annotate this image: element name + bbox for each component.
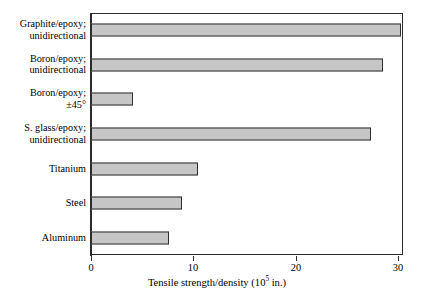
bar (91, 231, 169, 244)
bar (91, 162, 198, 175)
x-axis-tick (398, 256, 399, 261)
x-axis-tick-label: 20 (276, 262, 316, 274)
bar (91, 93, 133, 106)
x-axis-title-prefix: Tensile strength/density (10 (148, 277, 266, 288)
x-axis-tick-label: 10 (173, 262, 213, 274)
bars-layer (0, 0, 434, 308)
x-axis-tick-label: 0 (71, 262, 111, 274)
bar (91, 197, 182, 210)
bar (91, 24, 401, 37)
tensile-strength-bar-chart: Graphite/epoxy;unidirectionalBoron/epoxy… (0, 0, 434, 308)
bar (91, 58, 383, 71)
x-axis-title-suffix: in.) (269, 277, 286, 288)
x-axis-tick (193, 256, 194, 261)
x-axis-title: Tensile strength/density (105 in.) (0, 277, 434, 288)
x-axis-tick (91, 256, 92, 261)
x-axis-tick (296, 256, 297, 261)
x-axis-tick-label: 30 (378, 262, 418, 274)
bar (91, 128, 371, 141)
